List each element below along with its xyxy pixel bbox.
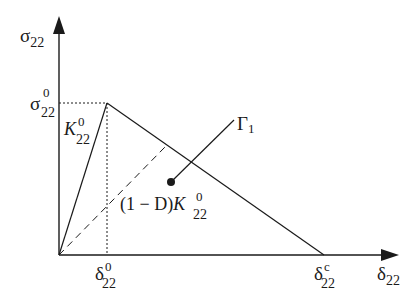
peak-stress-sup: 0 [43,85,50,100]
peak-stress-sub: 22 [41,105,55,120]
degraded-stiffness-sub: 22 [193,207,207,222]
y-axis-label: σ22 [20,25,44,50]
x-axis-label: δ22 [377,263,400,288]
initial-stiffness-sup: 0 [78,114,85,129]
initial-stiffness-sub: 22 [76,132,90,147]
energy-label: Γ1 [237,113,254,136]
x-axis-arrow-icon [381,249,399,261]
onset-disp-sup: 0 [105,259,112,274]
final-disp-sub: 22 [321,276,335,291]
peak-stress-label: σ [30,93,40,114]
degraded-stiffness-sup: 0 [196,189,203,204]
degraded-stiffness-label: (1 − D)K [120,194,186,215]
initial-stiffness-label: K [63,119,77,139]
energy-marker-dot [167,178,175,186]
onset-disp-sub: 22 [102,276,116,291]
energy-leader-line [171,120,234,182]
traction-separation-diagram: σ22 δ22 σ 0 22 K 0 22 (1 − D)K 0 22 Γ1 δ… [0,0,420,302]
softening-line [107,103,324,255]
final-disp-sup: c [324,259,330,274]
y-axis-arrow-icon [53,16,65,34]
